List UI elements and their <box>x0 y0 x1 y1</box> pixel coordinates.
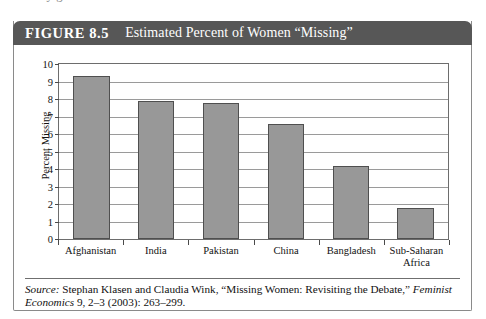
source-text-part1: Stephan Klasen and Claudia Wink, “Missin… <box>59 283 412 295</box>
y-tick-label: 5 <box>48 146 53 157</box>
x-axis-label-line: Africa <box>384 257 449 269</box>
bar <box>268 124 304 240</box>
bar <box>203 103 239 240</box>
x-axis-label-line: Afghanistan <box>58 245 123 257</box>
bar-slot <box>59 64 124 239</box>
source-text-part2: 9, 2–3 (2003): 263–299. <box>74 296 185 308</box>
x-axis-label: India <box>123 245 188 269</box>
x-axis-labels: AfghanistanIndiaPakistanChinaBangladeshS… <box>58 245 449 269</box>
y-tick-label: 10 <box>43 59 54 70</box>
bar <box>73 76 109 239</box>
bar-slot <box>383 64 448 239</box>
y-tick-label: 4 <box>48 164 53 175</box>
bar <box>138 101 174 239</box>
x-axis-label: Sub-SaharanAfrica <box>384 245 449 269</box>
source-citation: Source: Stephan Klasen and Claudia Wink,… <box>25 283 465 309</box>
plot-area: 012345678910 <box>58 63 449 240</box>
x-axis-label-line: Bangladesh <box>319 245 384 257</box>
x-axis-label-line: India <box>123 245 188 257</box>
bar <box>333 166 369 239</box>
figure-header: FIGURE 8.5 Estimated Percent of Women “M… <box>13 21 472 45</box>
bar-slot <box>253 64 318 239</box>
y-tick-label: 3 <box>48 181 53 192</box>
x-axis-label: China <box>254 245 319 269</box>
x-axis-label: Afghanistan <box>58 245 123 269</box>
bar-slot <box>124 64 189 239</box>
bar <box>397 208 433 239</box>
y-tick-label: 0 <box>48 234 53 245</box>
figure-title: Estimated Percent of Women “Missing” <box>125 25 353 41</box>
y-tick-label: 9 <box>48 76 53 87</box>
figure-number: FIGURE 8.5 <box>25 25 109 42</box>
x-axis-label-line: China <box>254 245 319 257</box>
y-tick-label: 6 <box>48 129 53 140</box>
bars-group <box>59 64 448 239</box>
source-divider <box>25 278 460 279</box>
x-axis-label-line: Pakistan <box>188 245 253 257</box>
y-tick-label: 2 <box>48 199 53 210</box>
source-label: Source: <box>25 283 59 295</box>
bar-slot <box>318 64 383 239</box>
bar-slot <box>189 64 254 239</box>
x-axis-label: Bangladesh <box>319 245 384 269</box>
bar-chart: Percent Missing 012345678910 Afghanistan… <box>14 45 471 275</box>
y-tick-label: 7 <box>48 111 53 122</box>
page-top-text: s t t y g <box>24 0 63 3</box>
page-top-text-sliver: s t t y g <box>0 0 486 14</box>
y-tick-label: 1 <box>48 216 53 227</box>
x-tick-mark <box>449 240 450 245</box>
x-axis-label-line: Sub-Saharan <box>384 245 449 257</box>
y-tick-label: 8 <box>48 94 53 105</box>
x-axis-label: Pakistan <box>188 245 253 269</box>
